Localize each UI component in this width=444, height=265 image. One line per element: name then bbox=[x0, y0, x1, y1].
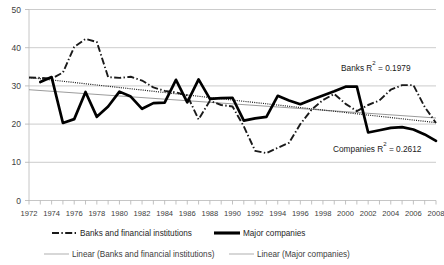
legend-label-companies[interactable]: Major companies bbox=[243, 229, 305, 238]
y-tick-label-20: 20 bbox=[12, 119, 22, 129]
x-tick-label-1978: 1978 bbox=[88, 209, 105, 218]
x-tick-label-1996: 1996 bbox=[292, 209, 309, 218]
x-tick-label-2006: 2006 bbox=[405, 209, 422, 218]
legend-row-2: Linear (Banks and financial institutions… bbox=[44, 250, 350, 259]
x-tick-label-1972: 1972 bbox=[21, 209, 38, 218]
x-tick-label-1998: 1998 bbox=[314, 209, 331, 218]
y-tick-label-30: 30 bbox=[12, 81, 22, 91]
x-tick-label-1988: 1988 bbox=[201, 209, 218, 218]
y-tick-label-10: 10 bbox=[12, 157, 22, 167]
legend-label-trend-banks[interactable]: Linear (Banks and financial institutions… bbox=[72, 250, 215, 259]
x-tick-label-1982: 1982 bbox=[134, 209, 151, 218]
x-tick-label-1974: 1974 bbox=[43, 209, 60, 218]
x-tick-label-1980: 1980 bbox=[111, 209, 128, 218]
y-tick-label-50: 50 bbox=[12, 5, 22, 15]
line-chart: 50 40 30 20 10 0 19721974197619781980198… bbox=[0, 0, 444, 265]
chart-svg: 50 40 30 20 10 0 19721974197619781980198… bbox=[0, 0, 444, 265]
x-tick-label-1976: 1976 bbox=[66, 209, 83, 218]
y-tick-label-40: 40 bbox=[12, 43, 22, 53]
x-tick-label-1990: 1990 bbox=[224, 209, 241, 218]
x-tick-label-1984: 1984 bbox=[156, 209, 173, 218]
legend-label-trend-companies[interactable]: Linear (Major companies) bbox=[257, 250, 350, 259]
legend-label-banks[interactable]: Banks and financial institutions bbox=[80, 229, 192, 238]
x-tick-label-1986: 1986 bbox=[179, 209, 196, 218]
y-tick-label-0: 0 bbox=[16, 196, 21, 206]
x-tick-label-2004: 2004 bbox=[382, 209, 399, 218]
x-tick-label-1994: 1994 bbox=[269, 209, 286, 218]
x-tick-label-2002: 2002 bbox=[360, 209, 377, 218]
x-tick-label-2000: 2000 bbox=[337, 209, 354, 218]
x-tick-label-2008: 2008 bbox=[428, 209, 444, 218]
legend-row-1: Banks and financial institutions Major c… bbox=[52, 229, 305, 238]
x-tick-label-1992: 1992 bbox=[247, 209, 264, 218]
chart-background bbox=[0, 0, 444, 265]
